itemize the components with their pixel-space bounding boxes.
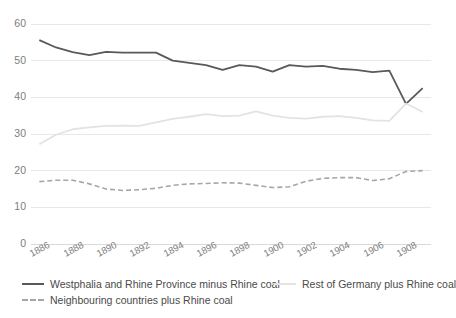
legend-swatch-dashed [22, 295, 44, 305]
legend-swatch-solid-light [274, 279, 296, 289]
y-tick-label: 60 [2, 18, 26, 29]
legend-item-rest-of-germany[interactable]: Rest of Germany plus Rhine coal [274, 278, 456, 290]
y-tick-label: 50 [2, 55, 26, 66]
chart-legend: Westphalia and Rhine Province minus Rhin… [0, 276, 446, 318]
legend-label-westphalia: Westphalia and Rhine Province minus Rhin… [50, 278, 280, 290]
y-tick-label: 40 [2, 91, 26, 102]
series-lines [39, 40, 422, 190]
legend-label-rest-of-germany: Rest of Germany plus Rhine coal [302, 278, 456, 290]
y-tick-label: 30 [2, 128, 26, 139]
y-tick-label: 10 [2, 201, 26, 212]
gridlines [31, 24, 431, 244]
y-tick-label: 0 [2, 238, 26, 249]
legend-item-westphalia[interactable]: Westphalia and Rhine Province minus Rhin… [22, 278, 280, 290]
legend-item-neighbouring[interactable]: Neighbouring countries plus Rhine coal [22, 294, 233, 306]
y-tick-label: 20 [2, 165, 26, 176]
series-line-rest-of-germany [39, 104, 422, 145]
legend-swatch-solid-dark [22, 279, 44, 289]
series-line-neighbouring [39, 171, 422, 191]
series-line-westphalia [39, 40, 422, 104]
legend-label-neighbouring: Neighbouring countries plus Rhine coal [50, 294, 233, 306]
